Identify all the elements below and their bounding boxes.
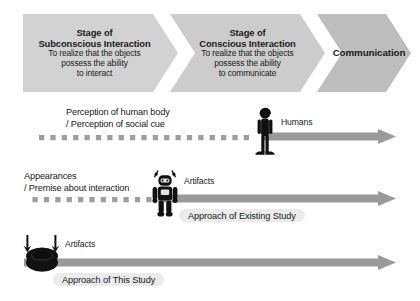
disc-robot-icon	[24, 247, 60, 273]
approach-this-study-label: Approach of This Study	[53, 273, 164, 286]
dotted-line-artifacts	[24, 197, 160, 204]
row-artifacts-label-line2: / Premise about interaction	[24, 182, 129, 194]
stage-text-2: Stage of Conscious Interaction To realiz…	[170, 27, 325, 79]
stage-chevron-conscious: Stage of Conscious Interaction To realiz…	[170, 14, 325, 92]
stage-text-3: Communication	[317, 47, 411, 59]
stage-sub-line3: to communicate	[184, 69, 311, 79]
stage-chevron-communication: Communication	[317, 14, 411, 92]
stage-title-line1: Stage of	[27, 27, 162, 38]
dotted-line-humans	[24, 135, 264, 142]
approach-existing-study-label: Approach of Existing Study	[179, 209, 305, 222]
actor-label-humans: Humans	[281, 117, 312, 127]
row-humans-label-line1: Perception of human body	[66, 106, 170, 118]
stage-text-1: Stage of Subconscious Interaction To rea…	[23, 27, 178, 79]
row-humans-label-line2: / Perception of social cue	[66, 118, 170, 130]
arrow-artifacts-existing	[158, 191, 396, 209]
stage-title-line1: Communication	[331, 47, 407, 59]
actor-label-this-study: Artifacts	[65, 239, 95, 249]
stage-title-line1: Stage of	[184, 27, 311, 38]
arrow-this-study	[24, 255, 396, 273]
arrow-humans	[262, 129, 396, 147]
actor-label-artifacts: Artifacts	[184, 176, 214, 186]
row-humans-label: Perception of human body / Perception of…	[66, 106, 170, 130]
row-artifacts-label-line1: Appearances	[24, 170, 129, 182]
human-figure-icon	[254, 107, 276, 157]
diagram-canvas: Stage of Subconscious Interaction To rea…	[0, 0, 420, 301]
stage-chevron-subconscious: Stage of Subconscious Interaction To rea…	[23, 14, 178, 92]
robot-figure-icon	[150, 170, 180, 218]
stage-sub-line3: to interact	[27, 69, 162, 79]
row-artifacts-label: Appearances / Premise about interaction	[24, 170, 129, 194]
